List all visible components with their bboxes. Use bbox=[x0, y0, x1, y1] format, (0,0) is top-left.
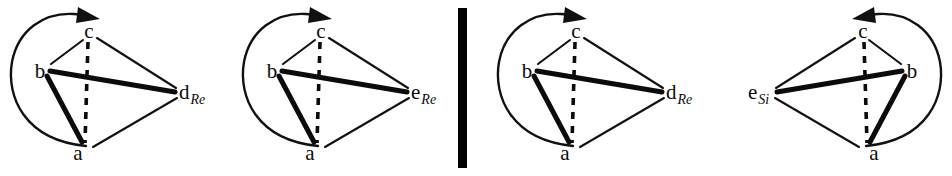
vertex-subscript-d-3: Re bbox=[677, 92, 693, 107]
bond-b-a-3 bbox=[534, 76, 569, 142]
structure-2: a b c eRe bbox=[243, 7, 436, 165]
vertex-text-e-2: e bbox=[411, 80, 420, 104]
bond-a-e-4 bbox=[775, 98, 859, 147]
vertex-subscript-d-1: Re bbox=[190, 92, 206, 107]
vertical-separator bbox=[458, 8, 467, 168]
clockwise-rotation-arrow-2 bbox=[243, 14, 325, 146]
bond-b-d-1 bbox=[50, 71, 175, 92]
vertex-label-a-2: a bbox=[305, 141, 315, 165]
bond-c-a-dashed-3 bbox=[572, 42, 575, 143]
bond-b-d-3 bbox=[537, 71, 662, 92]
counterclockwise-rotation-arrow-4 bbox=[859, 14, 941, 146]
vertex-label-e-2: eRe bbox=[411, 80, 436, 107]
bond-b-e-4 bbox=[777, 71, 902, 92]
vertex-subscript-e-4: Si bbox=[758, 92, 769, 107]
bond-b-c-3 bbox=[538, 40, 570, 64]
bond-b-e-2 bbox=[282, 71, 407, 92]
structure-3: a b c dRe bbox=[498, 7, 692, 165]
bond-b-c-1 bbox=[51, 40, 83, 64]
vertex-label-b-4: b bbox=[907, 59, 918, 83]
vertex-label-c-4: c bbox=[858, 19, 867, 43]
vertex-text-d-3: d bbox=[666, 80, 677, 104]
stereochemistry-figure: a b c dRe a b c eRe bbox=[0, 0, 952, 176]
bond-b-a-2 bbox=[279, 76, 314, 142]
bond-a-d-3 bbox=[580, 98, 664, 147]
bond-c-a-dashed-1 bbox=[85, 42, 88, 143]
vertex-label-a-4: a bbox=[869, 141, 879, 165]
clockwise-rotation-arrow-1 bbox=[11, 14, 93, 146]
vertex-label-c-2: c bbox=[316, 19, 325, 43]
structure-4: a b c eSi bbox=[748, 7, 941, 165]
vertex-text-d-1: d bbox=[179, 80, 190, 104]
vertex-label-a-1: a bbox=[73, 141, 83, 165]
vertex-label-b-1: b bbox=[35, 59, 46, 83]
bond-b-a-4 bbox=[870, 76, 905, 142]
vertex-label-c-1: c bbox=[84, 19, 93, 43]
bond-c-a-dashed-4 bbox=[864, 42, 867, 143]
figure-canvas: a b c dRe a b c eRe bbox=[0, 0, 952, 176]
vertex-label-b-2: b bbox=[267, 59, 278, 83]
vertex-label-c-3: c bbox=[571, 19, 580, 43]
structure-1: a b c dRe bbox=[11, 7, 205, 165]
vertex-subscript-e-2: Re bbox=[420, 92, 436, 107]
vertex-label-d-1: dRe bbox=[179, 80, 205, 107]
vertex-label-b-3: b bbox=[522, 59, 533, 83]
bond-c-a-dashed-2 bbox=[317, 42, 320, 143]
vertex-label-d-3: dRe bbox=[666, 80, 692, 107]
bond-b-a-1 bbox=[47, 76, 82, 142]
vertex-label-e-4: eSi bbox=[748, 80, 769, 107]
bond-b-c-4 bbox=[869, 40, 901, 64]
vertex-label-a-3: a bbox=[560, 141, 570, 165]
vertex-text-e-4: e bbox=[748, 80, 757, 104]
clockwise-rotation-arrow-3 bbox=[498, 14, 580, 146]
bond-a-e-2 bbox=[325, 98, 409, 147]
bond-a-d-1 bbox=[93, 98, 177, 147]
bond-b-c-2 bbox=[283, 40, 315, 64]
